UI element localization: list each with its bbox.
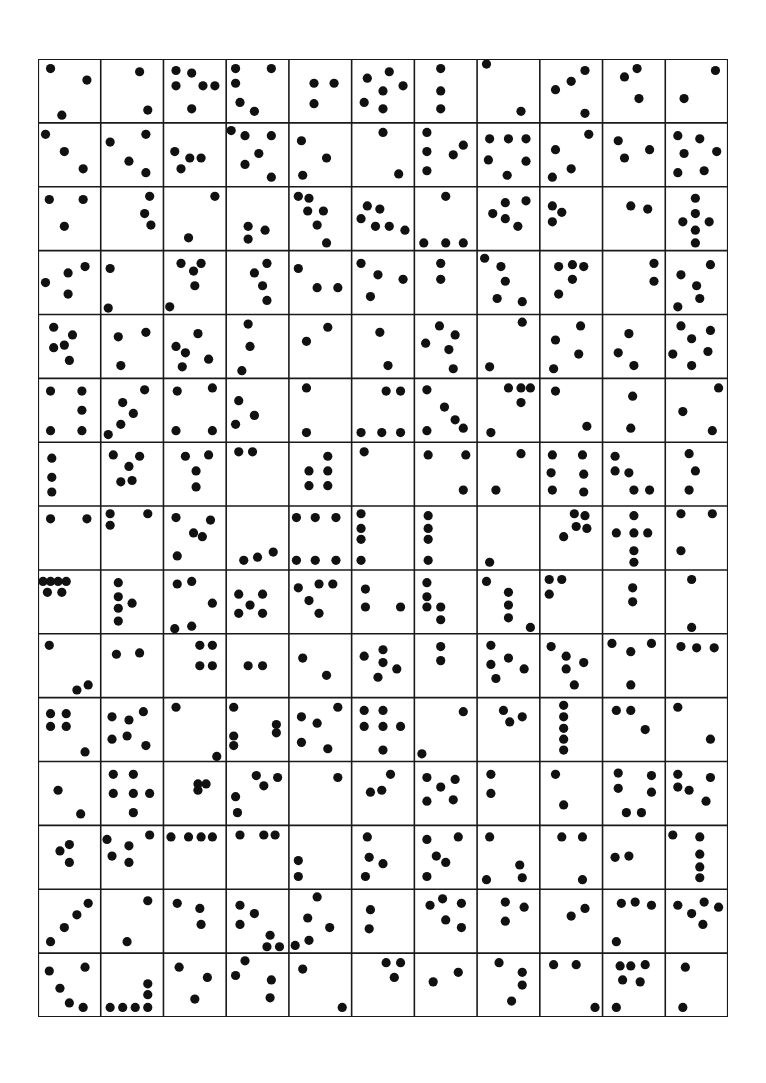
cell-background (289, 123, 352, 187)
dot (208, 383, 217, 392)
dot (695, 850, 704, 859)
dot (72, 910, 81, 919)
dot (79, 164, 88, 173)
dot (240, 160, 249, 169)
dot (298, 653, 307, 662)
dot (503, 171, 512, 180)
grid-cell (352, 698, 415, 762)
dot (143, 979, 152, 988)
dot (329, 79, 338, 88)
dot (259, 781, 268, 790)
dot (708, 426, 717, 435)
dot (634, 94, 643, 103)
grid-cell (477, 570, 540, 634)
grid-cell (226, 442, 289, 506)
dot (643, 204, 652, 213)
dot (459, 707, 468, 716)
dot (269, 547, 278, 556)
dot (170, 624, 179, 633)
dot (459, 238, 468, 247)
grid-cell (540, 378, 603, 442)
dot (425, 901, 434, 910)
grid-cell (603, 506, 666, 570)
dot (424, 511, 433, 520)
dot (55, 846, 64, 855)
dot (673, 131, 682, 140)
dot (171, 342, 180, 351)
dot (104, 303, 113, 312)
dot (692, 281, 701, 290)
grid-cell (352, 570, 415, 634)
dot (171, 81, 180, 90)
grid-cell (38, 698, 101, 762)
dot (338, 1003, 347, 1012)
dot (145, 789, 154, 798)
dot (237, 366, 246, 375)
dot (55, 984, 64, 993)
grid-cell (665, 953, 728, 1017)
dot (187, 577, 196, 586)
dot (645, 486, 654, 495)
dot (628, 392, 637, 401)
grid-cell (289, 506, 352, 570)
dot (361, 602, 370, 611)
dot (504, 134, 513, 143)
dot (65, 356, 74, 365)
grid-cell (101, 314, 164, 378)
dot (176, 259, 185, 268)
dot (695, 294, 704, 303)
dot (712, 147, 721, 156)
grid-cell (665, 570, 728, 634)
dot (187, 104, 196, 113)
cell-background (603, 378, 666, 442)
grid-cell (414, 825, 477, 889)
dot (383, 361, 392, 370)
dot (574, 349, 583, 358)
cell-background (352, 314, 415, 378)
cell-background (477, 442, 540, 506)
dot (441, 858, 450, 867)
dot (626, 706, 635, 715)
dot (461, 450, 470, 459)
dot (229, 741, 238, 750)
grid-cell (665, 59, 728, 123)
dot (361, 584, 370, 593)
dot (294, 872, 303, 881)
dot (382, 387, 391, 396)
dot (700, 166, 709, 175)
dot (360, 447, 369, 456)
grid-cell (477, 442, 540, 506)
dot (494, 958, 503, 967)
dot (114, 332, 123, 341)
grid-cell (289, 59, 352, 123)
dot (124, 715, 133, 724)
dot (356, 524, 365, 533)
dot (203, 973, 212, 982)
grid-cell (226, 251, 289, 315)
cell-background (163, 889, 226, 953)
grid-cell (477, 953, 540, 1017)
dot (322, 671, 331, 680)
dot (681, 963, 690, 972)
dot (53, 577, 62, 586)
grid-cell (163, 570, 226, 634)
dot (549, 960, 558, 969)
dot (114, 604, 123, 613)
dot (141, 741, 150, 750)
grid-cell (603, 634, 666, 698)
dot (579, 658, 588, 667)
grid-cell (101, 506, 164, 570)
cell-background (226, 314, 289, 378)
grid-cell (665, 251, 728, 315)
dot (235, 830, 244, 839)
dot (202, 779, 211, 788)
grid-cell (226, 889, 289, 953)
dot (424, 450, 433, 459)
dot (140, 385, 149, 394)
dot (106, 137, 115, 146)
grid-cell (101, 634, 164, 698)
grid-cell (540, 825, 603, 889)
dot (260, 226, 269, 235)
grid-cell (101, 59, 164, 123)
dot (614, 784, 623, 793)
